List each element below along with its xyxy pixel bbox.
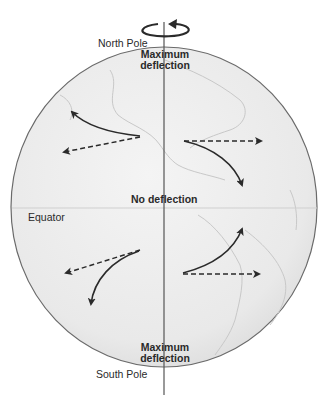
max-deflection-bottom-label: Maximum deflection <box>130 342 200 364</box>
no-deflection-label: No deflection <box>131 194 198 205</box>
max-deflection-top-line2: deflection <box>130 60 200 71</box>
rotation-icon <box>142 19 188 36</box>
equator-label: Equator <box>28 211 65 223</box>
max-deflection-bottom-line2: deflection <box>130 353 200 364</box>
max-deflection-top-label: Maximum deflection <box>130 49 200 71</box>
south-pole-label: South Pole <box>96 368 147 380</box>
